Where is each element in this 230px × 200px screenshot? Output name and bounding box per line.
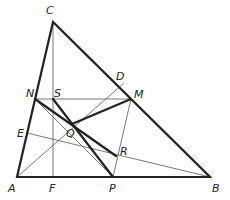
label-n: N (26, 87, 34, 100)
segment-mp (113, 99, 131, 177)
label-s: S (54, 87, 61, 100)
label-e: E (17, 127, 24, 140)
label-q: Q (66, 127, 75, 140)
label-r: R (120, 145, 128, 158)
label-b: B (212, 182, 220, 195)
point-labels: C D M N S Q E R A F P B (7, 4, 220, 195)
altitude-be (27, 133, 210, 177)
geometry-diagram: C D M N S Q E R A F P B (0, 0, 230, 200)
thick-lines (17, 22, 210, 177)
label-a: A (7, 182, 16, 195)
label-d: D (116, 70, 124, 83)
label-m: M (134, 88, 144, 101)
label-c: C (46, 4, 54, 17)
label-p: P (109, 182, 116, 195)
label-f: F (49, 182, 56, 195)
